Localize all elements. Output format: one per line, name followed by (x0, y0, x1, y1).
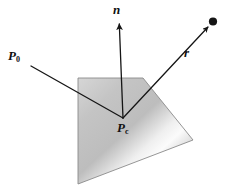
label-ray-origin: P0 (8, 49, 20, 64)
reflection-endpoint-dot (209, 17, 217, 25)
label-normal-symbol: n (113, 2, 120, 17)
reflection-diagram: P0 Pc n r (0, 0, 229, 191)
label-contact-point-subscript: c (125, 127, 129, 136)
label-reflection: r (184, 46, 189, 59)
label-reflection-symbol: r (184, 45, 189, 60)
label-ray-origin-subscript: 0 (16, 55, 20, 64)
reflected-ray (123, 27, 208, 118)
label-ray-origin-symbol: P (8, 48, 16, 63)
label-normal: n (113, 3, 120, 16)
label-contact-point-symbol: P (117, 120, 125, 135)
label-contact-point: Pc (117, 121, 129, 136)
diagram-canvas (0, 0, 229, 191)
reflecting-plane (78, 78, 193, 184)
